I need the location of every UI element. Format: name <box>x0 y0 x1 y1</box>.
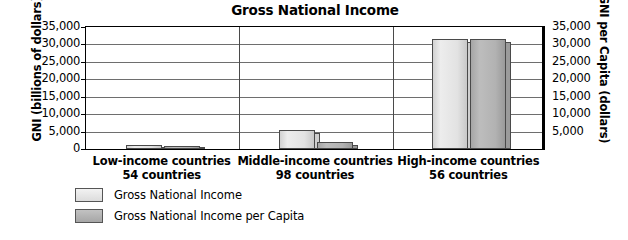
legend-label: Gross National Income <box>114 188 242 202</box>
y-axis-tick-label-left: 30,000 <box>32 38 80 50</box>
bar-gni-per-capita <box>317 142 353 149</box>
y-axis-tick-label-right: 25,000 <box>552 56 602 68</box>
y-axis-tick-label-right: 35,000 <box>552 21 602 33</box>
y-axis-tick-label-right: 10,000 <box>552 108 602 120</box>
plot-inner <box>86 27 542 149</box>
y-axis-tick-label-left: 5,000 <box>32 126 80 138</box>
bar-gni <box>279 130 315 149</box>
bar-gni <box>126 145 162 149</box>
legend-item: Gross National Income <box>75 185 304 204</box>
bar-gni-per-capita <box>470 39 506 149</box>
y-axis-tick-label-left: 35,000 <box>32 21 80 33</box>
y-axis-tick-label-left: 25,000 <box>32 56 80 68</box>
y-axis-tick-label-right: 20,000 <box>552 73 602 85</box>
y-axis-tick-label-right: 5,000 <box>552 126 602 138</box>
gross-national-income-chart: Gross National Income GNI (billions of d… <box>0 0 628 240</box>
bar-side-face <box>353 145 358 149</box>
category-label-count: 56 countries <box>378 168 558 182</box>
legend-label: Gross National Income per Capita <box>114 209 304 223</box>
legend-swatch-gross-national-income <box>75 188 103 202</box>
bar-side-face <box>200 147 205 149</box>
bar-side-face <box>506 42 511 149</box>
plot-area <box>85 26 545 150</box>
category-label: High-income countries56 countries <box>378 154 558 182</box>
y-axis-tick-label-left: 20,000 <box>32 73 80 85</box>
legend-swatch-gross-national-income-per-capita <box>75 209 103 223</box>
category-separator <box>239 27 240 149</box>
bar-gni-per-capita <box>164 146 200 149</box>
category-separator <box>393 27 394 149</box>
y-axis-tick-label-right: 30,000 <box>552 38 602 50</box>
bar-gni <box>432 39 468 149</box>
chart-legend: Gross National Income Gross National Inc… <box>75 185 304 227</box>
y-axis-tick-label-right: 15,000 <box>552 91 602 103</box>
y-axis-tick-label-left: 15,000 <box>32 91 80 103</box>
y-axis-tick-label-left: 10,000 <box>32 108 80 120</box>
legend-item: Gross National Income per Capita <box>75 206 304 225</box>
y-axis-tick-label-left: 0 <box>32 143 80 155</box>
category-label-name: High-income countries <box>378 154 558 168</box>
